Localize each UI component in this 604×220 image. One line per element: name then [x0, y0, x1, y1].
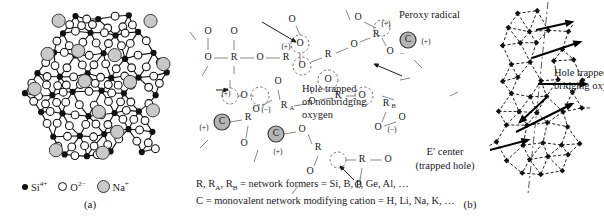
- svg-text:R: R: [245, 111, 252, 122]
- legend-o-label: O: [70, 182, 78, 193]
- legend-o-charge: 2−: [78, 180, 86, 188]
- svg-text:R: R: [231, 51, 238, 62]
- def-formers-pre: R, R: [196, 178, 215, 189]
- svg-text:(+): (+): [281, 42, 291, 51]
- definition-modifying-cation: C = monovalent network modifying cation …: [196, 193, 455, 208]
- svg-text:(+): (+): [273, 147, 283, 156]
- legend-item-silicon: Si4+: [22, 180, 47, 193]
- panel-c-svg: [476, 0, 604, 196]
- svg-text:−: −: [400, 49, 404, 58]
- svg-text:(−): (−): [261, 105, 271, 114]
- legend-na-label: Na: [113, 182, 125, 193]
- svg-text:O: O: [386, 45, 393, 56]
- ion-nodes: [22, 12, 170, 159]
- svg-text:(+): (+): [381, 19, 391, 28]
- svg-text:O: O: [256, 51, 263, 62]
- def-formers-post: = network formers = Si, B, P, Ge, Al, …: [237, 178, 408, 189]
- svg-text:O: O: [204, 51, 211, 62]
- svg-text:O: O: [252, 103, 259, 114]
- svg-text:R: R: [383, 97, 390, 108]
- svg-text:R: R: [359, 153, 366, 164]
- legend-item-oxygen: O2−: [58, 180, 85, 193]
- svg-text:R: R: [283, 51, 290, 62]
- svg-text:O: O: [274, 75, 281, 86]
- svg-text:(−): (−): [387, 125, 397, 134]
- svg-text:C: C: [273, 128, 279, 138]
- annotation-nonbridging-line3: oxygen: [302, 108, 377, 121]
- svg-text:O: O: [398, 111, 405, 122]
- dashed-bonds: [489, 2, 591, 194]
- svg-text:(+): (+): [421, 37, 431, 46]
- legend-si-label: Si: [31, 182, 40, 193]
- silicon-dot-icon: [22, 184, 28, 190]
- sodium-circle-icon: [97, 180, 110, 193]
- svg-text:O: O: [240, 137, 247, 148]
- svg-text:R: R: [281, 99, 288, 110]
- svg-text:O: O: [204, 25, 211, 36]
- definition-network-formers: R, RA, RB = network formers = Si, B, P, …: [196, 176, 455, 193]
- svg-text:O: O: [374, 121, 381, 132]
- svg-text:R: R: [325, 48, 332, 59]
- annotation-nonbridging-line2: on nonbridging: [302, 95, 377, 108]
- def-formers-mid: , R: [220, 178, 232, 189]
- svg-text:C: C: [219, 116, 225, 126]
- svg-text:R: R: [315, 141, 322, 152]
- annotation-peroxy-radical: Peroxy radical: [399, 8, 460, 21]
- svg-text:O: O: [298, 59, 305, 70]
- legend-na-charge: +: [125, 180, 129, 188]
- svg-text:O: O: [354, 11, 361, 22]
- svg-text:O: O: [230, 25, 237, 36]
- figure-root: Si4+ O2− Na+ (a) CCC OROROOO(+)ORORO(+)O…: [0, 0, 604, 220]
- svg-text:A: A: [290, 104, 295, 111]
- definitions-block: R, RA, RB = network formers = Si, B, P, …: [196, 176, 455, 209]
- svg-text:O: O: [296, 37, 303, 48]
- svg-text:O: O: [350, 38, 357, 49]
- panel-c-network-arrows: (c): [476, 0, 604, 220]
- svg-text:O: O: [288, 13, 295, 24]
- oxygen-circle-icon: [58, 182, 67, 191]
- svg-text:O: O: [298, 123, 305, 134]
- annotation-nonbridging-line1: Hole trapped: [302, 82, 377, 95]
- panel-a-label: (a): [60, 198, 120, 210]
- annotation-hole-nonbridging-oxygen: Hole trapped on nonbridging oxygen: [302, 82, 377, 121]
- svg-text:C: C: [405, 34, 411, 44]
- legend-si-charge: 4+: [40, 180, 48, 188]
- svg-text:O: O: [306, 165, 313, 176]
- svg-text:O: O: [384, 153, 391, 164]
- svg-text:(+): (+): [199, 123, 209, 132]
- svg-text:R: R: [373, 28, 380, 39]
- svg-text:O: O: [240, 89, 247, 100]
- legend-item-sodium: Na+: [97, 180, 129, 193]
- svg-text:B: B: [392, 102, 397, 109]
